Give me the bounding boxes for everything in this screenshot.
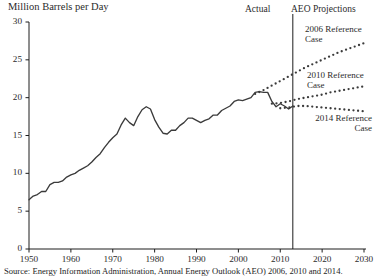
x-axis-tick-label: 1950 — [12, 254, 46, 264]
oil-consumption-chart: Million Barrels per Day Actual AEO Proje… — [0, 0, 376, 280]
y-axis-tick-label: 25 — [0, 54, 22, 64]
y-axis-tick-label: 30 — [0, 16, 22, 26]
y-axis-tick-label: 15 — [0, 130, 22, 140]
x-axis-tick-label: 2030 — [347, 254, 376, 264]
y-axis-tick-label: 20 — [0, 92, 22, 102]
x-axis-tick-label: 2020 — [305, 254, 339, 264]
y-axis-tick-label: 10 — [0, 167, 22, 177]
x-axis-tick-label: 2010 — [263, 254, 297, 264]
x-axis-tick-label: 1980 — [138, 254, 172, 264]
x-axis-tick-label: 2000 — [221, 254, 255, 264]
x-axis-tick-label: 1960 — [54, 254, 88, 264]
y-axis-tick-label: 0 — [0, 243, 22, 253]
annotation-2006-reference-case: 2006 Reference Case — [305, 24, 362, 44]
annotation-actual: Actual — [245, 4, 270, 15]
annotation-2010-reference-case: 2010 Reference Case — [307, 70, 364, 90]
source-note: Source: Energy Information Administratio… — [4, 266, 343, 276]
y-axis-tick-label: 5 — [0, 205, 22, 215]
x-axis-tick-label: 1990 — [180, 254, 214, 264]
annotation-aeo-projections: AEO Projections — [291, 4, 356, 15]
x-axis-tick-label: 1970 — [96, 254, 130, 264]
annotation-2014-reference-case: 2014 Reference Case — [312, 113, 372, 133]
